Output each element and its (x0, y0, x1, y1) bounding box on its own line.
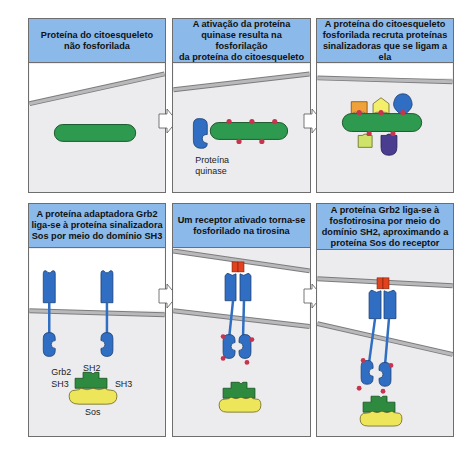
kinase-label-2: quinase (195, 166, 226, 176)
panel-2-illustration: Proteína quinase (173, 64, 310, 192)
panel-3-caption: A proteína do citoesqueleto fosforilada … (317, 19, 453, 63)
panel-6-illustration (317, 251, 453, 436)
grb2-adaptor (363, 396, 395, 412)
panel-4-grb2-sos: A proteína adaptadora Grb2 liga-se à pro… (28, 203, 166, 437)
sos-protein (219, 397, 261, 412)
panel-1-illustration (29, 64, 165, 192)
grb2-adaptor (223, 382, 255, 398)
cytoskeleton-protein (54, 125, 135, 142)
panel-2-svg: Proteína quinase (173, 64, 310, 192)
cytoskeleton-protein (342, 114, 421, 132)
panel-3-svg (317, 64, 453, 192)
panel-5-receptor-phosphorylation: Um receptor ativado torna-se fosforilado… (172, 203, 311, 437)
grb2-adaptor (75, 372, 107, 388)
cytoskeleton-protein (210, 123, 287, 140)
sos-label: Sos (85, 407, 101, 417)
sos-protein (360, 411, 402, 426)
sh3-right-label: SH3 (115, 379, 132, 389)
panel-4-illustration: Grb2 SH2 SH3 SH3 Sos (29, 249, 165, 436)
panel-1-caption: Proteína do citoesqueleto não fosforilad… (29, 19, 165, 63)
panel-3-illustration (317, 64, 453, 192)
panel-5-svg (173, 249, 310, 436)
protein-kinase (193, 119, 207, 149)
grb2-label: Grb2 (51, 367, 71, 377)
panel-1-svg (29, 64, 165, 192)
panel-3-recruitment: A proteína do citoesqueleto fosforilada … (316, 18, 454, 193)
panel-1-unphosphorylated: Proteína do citoesqueleto não fosforilad… (28, 18, 166, 193)
kinase-label-1: Proteína (195, 155, 229, 165)
signal-ligand (377, 278, 389, 289)
signal-ligand (232, 262, 244, 272)
panel-4-svg: Grb2 SH2 SH3 SH3 Sos (29, 249, 165, 436)
sh3-left-label: SH3 (51, 379, 68, 389)
sos-protein (69, 388, 117, 404)
purple-signaling-protein (381, 134, 397, 155)
panel-6-grb2-binding: A proteína Grb2 liga-se à fosfotirosina … (316, 203, 454, 437)
panel-2-caption: A ativação da proteína quinase resulta n… (173, 19, 310, 63)
panel-5-illustration (173, 249, 310, 436)
panel-6-caption: A proteína Grb2 liga-se à fosfotirosina … (317, 204, 453, 250)
lime-signaling-protein (358, 134, 372, 147)
panel-2-kinase-activation: A ativação da proteína quinase resulta n… (172, 18, 311, 193)
sh2-label: SH2 (83, 363, 100, 373)
panel-4-caption: A proteína adaptadora Grb2 liga-se à pro… (29, 204, 165, 248)
panel-6-svg (317, 251, 453, 436)
panel-5-caption: Um receptor ativado torna-se fosforilado… (173, 204, 310, 248)
